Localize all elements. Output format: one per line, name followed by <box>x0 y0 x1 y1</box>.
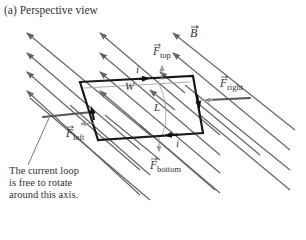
axis-rod-right <box>207 98 250 100</box>
axis-caption: The current loop is free to rotate aroun… <box>9 165 119 201</box>
subscript-top: top <box>160 50 171 60</box>
rotation-axis <box>43 98 250 117</box>
subscript-left: left <box>73 132 85 142</box>
vector-B-label: B <box>190 26 199 41</box>
force-top-label: F top <box>152 44 171 60</box>
width-dimension-line <box>84 82 190 88</box>
length-label: L <box>153 101 160 113</box>
force-bottom-label: F bottom <box>149 158 181 174</box>
field-line <box>200 105 260 155</box>
current-arrow-top-icon <box>139 79 146 80</box>
field-line-arrow-icon <box>173 53 290 150</box>
caption-line: is free to rotate <box>9 177 119 189</box>
subscript-bottom: bottom <box>157 164 181 174</box>
current-label-bottom: i <box>176 137 179 149</box>
force-right-label: F right <box>219 76 244 92</box>
field-line-arrow-icon <box>27 72 140 170</box>
field-line <box>200 115 290 190</box>
force-left-label: F left <box>65 126 85 142</box>
caption-pointer-line <box>28 118 49 165</box>
width-label: W <box>125 80 135 92</box>
caption-line: The current loop <box>9 165 119 177</box>
subscript-right: right <box>227 82 244 92</box>
current-arrow-bottom-icon <box>168 135 178 136</box>
caption-line: around this axis. <box>9 189 119 201</box>
current-label-top: i <box>136 63 139 75</box>
